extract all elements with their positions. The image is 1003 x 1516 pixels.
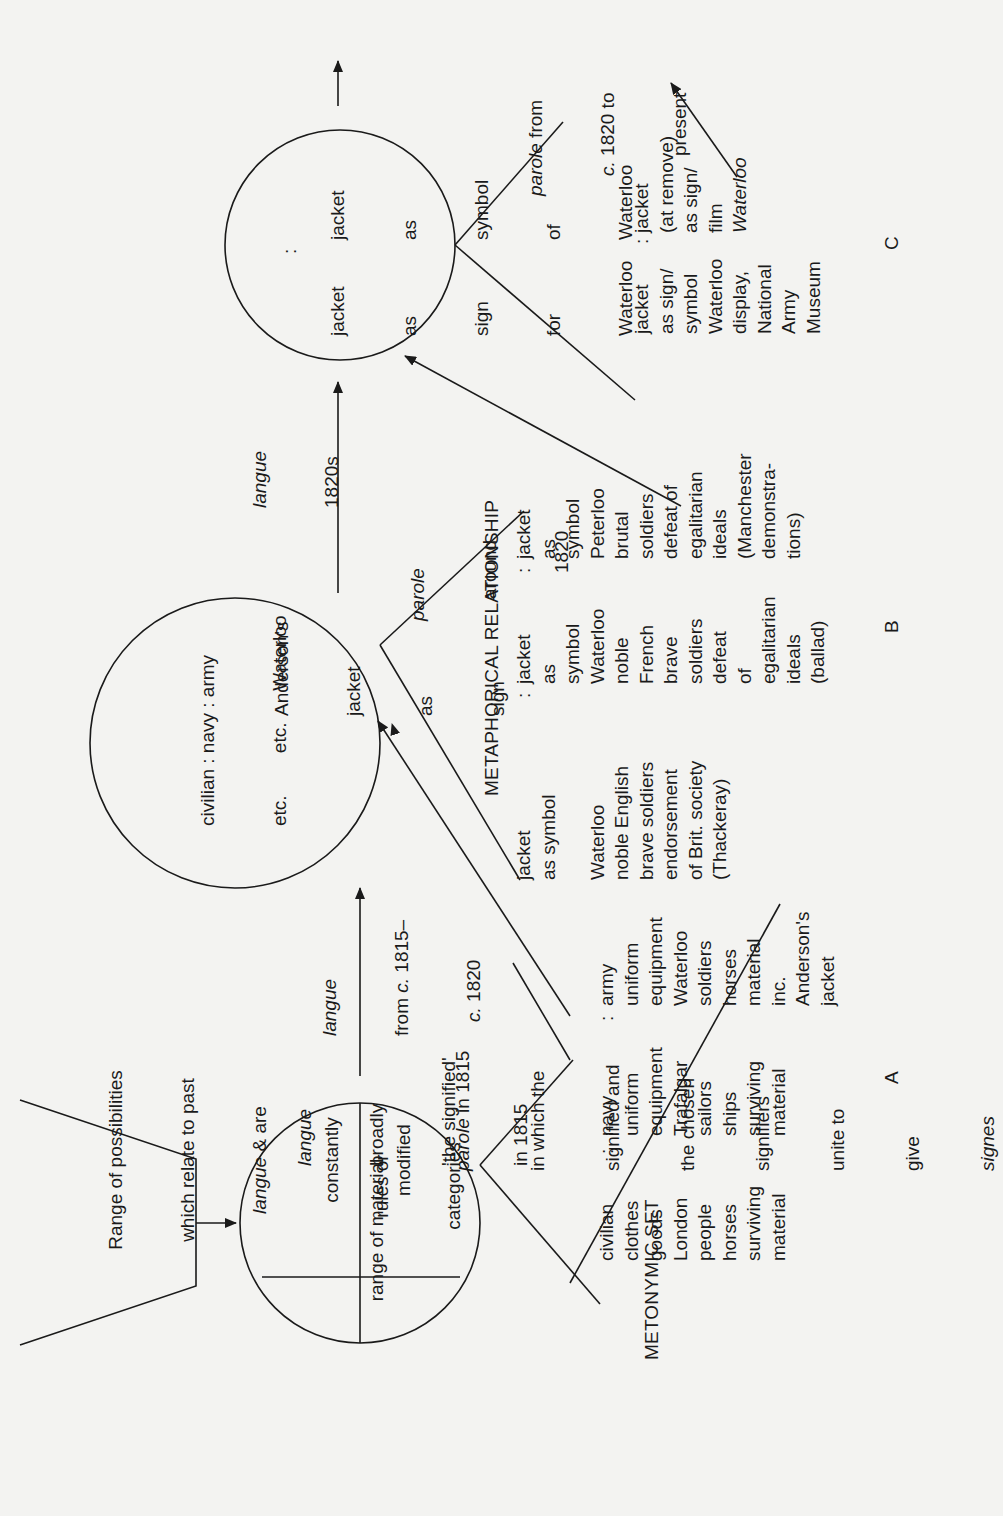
list-item: jacket: [512, 596, 537, 684]
list-item: material: [767, 1186, 792, 1261]
list-item: (ballad): [806, 596, 831, 684]
list-item: jacket: [512, 453, 537, 559]
list-item: jacket: [630, 259, 655, 334]
langue-word: langue: [293, 1057, 317, 1166]
list-item: symbol: [679, 259, 704, 334]
hexagon-line: which relate to past: [176, 975, 200, 1345]
circle3-line: jacket: [326, 165, 350, 240]
separator-colon: :: [595, 1016, 619, 1021]
list-item: soldiers: [635, 453, 660, 559]
circle2-center-line: jacket: [342, 622, 366, 716]
metonymic-navy-column: navy uniform equipment Trafalgar sailors…: [595, 1047, 791, 1136]
list-item: uniform: [620, 912, 645, 1006]
list-item: as sign/: [655, 259, 680, 334]
list-item: Anderson's: [791, 912, 816, 1006]
metonymic-civilian-column: civilian clothes goods London people hor…: [595, 1186, 791, 1261]
list-item: Waterloo: [669, 912, 694, 1006]
list-item: noble English: [610, 761, 635, 880]
list-item: as: [537, 453, 562, 559]
parole-1815-line: signes: [975, 1051, 1000, 1171]
list-item: equipment: [644, 1047, 669, 1136]
list-item: egalitarian: [684, 453, 709, 559]
circle3-line: as: [398, 165, 422, 240]
list-item: (Thackeray): [708, 761, 733, 880]
parole-1815-line: give: [900, 1051, 925, 1171]
spacer: [561, 761, 586, 880]
list-item: defeat of: [659, 453, 684, 559]
circle3-line: sign: [470, 261, 494, 336]
list-item: defeat: [708, 596, 733, 684]
list-item: Peterloo: [586, 453, 611, 559]
list-item: French: [635, 596, 660, 684]
metaphorical-relationship-label: METAPHORICAL RELATIONSHIP: [480, 500, 504, 796]
list-item: horses: [718, 1186, 743, 1261]
list-item: horses: [718, 912, 743, 1006]
list-item: inc.: [767, 912, 792, 1006]
parole-present-line: parole from: [524, 93, 548, 196]
parole-1815-line: in which the: [525, 1051, 550, 1171]
metaphor-thackeray-column: jacket as symbol Waterloo noble English …: [512, 761, 733, 880]
langue-word: langue: [318, 920, 342, 1036]
metaphor-ballad-column: jacket as symbol Waterloo noble French b…: [512, 596, 831, 684]
parole-1815-line: parole in 1815: [450, 1051, 475, 1171]
list-item: endorsement: [659, 761, 684, 880]
section-b-label: B: [880, 620, 904, 633]
list-item: brutal: [610, 453, 635, 559]
langue-1815-1820-label: langue from c. 1815– c. 1820: [270, 920, 534, 1036]
list-item: brave: [659, 596, 684, 684]
circle2-center: Anderson's jacket as sign: [222, 622, 558, 716]
list-item: London: [669, 1186, 694, 1261]
separator-colon: :: [595, 1149, 619, 1154]
list-item: Trafalgar: [669, 1047, 694, 1136]
separator-colon: :: [512, 568, 536, 573]
list-item: Museum: [802, 259, 827, 334]
metonymic-army-column: army uniform equipment Waterloo soldiers…: [595, 912, 840, 1006]
list-item: symbol: [561, 596, 586, 684]
list-item: civilian: [595, 1186, 620, 1261]
list-item: ideals: [708, 453, 733, 559]
list-item: as symbol: [537, 761, 562, 880]
list-item: surviving: [742, 1047, 767, 1136]
list-item: soldiers: [693, 912, 718, 1006]
list-item: jacket: [512, 761, 537, 880]
langue-word: langue: [248, 451, 272, 508]
list-item: film: [704, 136, 729, 233]
circle2-line: civilian : navy : army: [196, 616, 220, 826]
circle2-center-line: as: [414, 622, 438, 716]
list-item: army: [595, 912, 620, 1006]
section-c-museum-column: jacket as sign/ symbol Waterloo display,…: [630, 259, 826, 334]
list-item: display,: [728, 259, 753, 334]
circle3-line: for: [542, 261, 566, 336]
section-c-film-column: jacket (at remove) as sign/ film Waterlo…: [630, 136, 753, 233]
circle3-line: jacket: [326, 261, 350, 336]
circle2-center-line: Anderson's: [270, 622, 294, 716]
list-item: Waterloo: [586, 761, 611, 880]
list-item: Waterloo: [704, 259, 729, 334]
list-item: equipment: [644, 912, 669, 1006]
langue-range-line: c. 1820: [462, 920, 486, 1036]
list-item: material: [767, 1047, 792, 1136]
parole-word: parole: [406, 531, 430, 621]
list-item: navy: [595, 1047, 620, 1136]
list-item: symbol: [561, 453, 586, 559]
langue-1820s-line: 1820s: [320, 451, 344, 508]
section-a-label: A: [880, 1071, 904, 1084]
list-item: surviving: [742, 1186, 767, 1261]
list-item: material: [742, 912, 767, 1006]
hexagon-line: Range of possibilities: [104, 975, 128, 1345]
list-item: clothes: [620, 1186, 645, 1261]
separator-colon: :: [512, 693, 536, 698]
metaphor-peterloo-column: jacket as symbol Peterloo brutal soldier…: [512, 453, 806, 559]
langue-range-line: from c. 1815–: [390, 920, 414, 1036]
list-item: jacket: [816, 912, 841, 1006]
list-item: sailors: [693, 1047, 718, 1136]
list-item: Waterloo: [586, 596, 611, 684]
circle3-sign: jacket as sign for Waterloo: [278, 261, 686, 336]
list-item: egalitarian: [757, 596, 782, 684]
list-item: demonstra-: [757, 453, 782, 559]
circle3-line: as: [398, 261, 422, 336]
list-item: Waterloo: [728, 136, 753, 233]
list-item: noble: [610, 596, 635, 684]
separator-colon: :: [630, 239, 654, 244]
